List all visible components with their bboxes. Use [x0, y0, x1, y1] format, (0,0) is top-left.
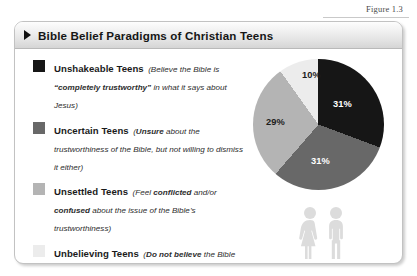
figure-card: Bible Belief Paradigms of Christian Teen…	[14, 21, 403, 264]
chart-legend: Unshakeable Teens (Believe the Bible is …	[33, 58, 245, 264]
legend-text-unshakeable: Unshakeable Teens (Believe the Bible is …	[54, 58, 245, 112]
legend-title: Unbelieving Teens	[54, 248, 139, 259]
figure-caption: Figure 1.3	[366, 4, 403, 14]
legend-item-uncertain: Uncertain Teens (Unsure about the trustw…	[33, 120, 245, 174]
card-body: Unshakeable Teens (Believe the Bible is …	[15, 50, 402, 263]
two-people-icon	[294, 205, 354, 261]
legend-swatch-uncertain	[33, 122, 45, 134]
triangle-right-icon	[24, 30, 31, 40]
legend-swatch-unbelieving	[33, 245, 45, 257]
legend-text-uncertain: Uncertain Teens (Unsure about the trustw…	[54, 120, 245, 174]
pie-slice-label-uncertain: 31%	[311, 156, 330, 166]
pie-slice-label-unbelieving: 10%	[302, 70, 321, 80]
legend-item-unbelieving: Unbelieving Teens (Do not believe the Bi…	[33, 243, 245, 265]
legend-title: Unshakeable Teens	[54, 63, 144, 74]
pie-chart: 31% 31% 29% 10%	[247, 55, 391, 199]
page-title: Bible Belief Paradigms of Christian Teen…	[38, 29, 273, 42]
legend-text-unbelieving: Unbelieving Teens (Do not believe the Bi…	[54, 243, 245, 265]
legend-swatch-unsettled	[33, 183, 45, 195]
legend-text-unsettled: Unsettled Teens (Feel conflicted and/or …	[54, 181, 245, 235]
legend-item-unshakeable: Unshakeable Teens (Believe the Bible is …	[33, 58, 245, 112]
legend-swatch-unshakeable	[33, 60, 45, 72]
legend-title: Unsettled Teens	[54, 186, 128, 197]
caption-rule	[323, 17, 409, 18]
pie-slice-label-unshakeable: 31%	[333, 99, 352, 109]
pie-slice-label-unsettled: 29%	[266, 117, 285, 127]
legend-title: Uncertain Teens	[54, 125, 129, 136]
legend-item-unsettled: Unsettled Teens (Feel conflicted and/or …	[33, 181, 245, 235]
card-header: Bible Belief Paradigms of Christian Teen…	[15, 22, 402, 49]
